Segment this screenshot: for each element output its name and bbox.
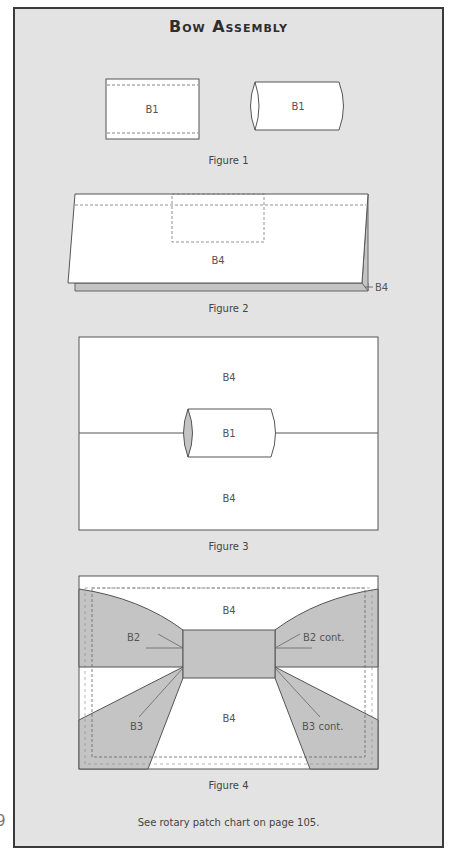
figure-4-b2-cont-label: B2 cont. xyxy=(303,632,344,643)
figure-4-knot xyxy=(183,630,275,678)
figure-4-bottom-label: B4 xyxy=(222,713,235,724)
figure-4-b3-cont-label: B3 cont. xyxy=(302,721,343,732)
figure-4-diagram: B4 B4 B2 B2 cont. B3 B3 cont. xyxy=(15,9,442,846)
page-number: 9 xyxy=(0,812,6,830)
figure-4-top-label: B4 xyxy=(222,605,235,616)
figure-4-caption: Figure 4 xyxy=(15,780,442,791)
figure-4-b3-label: B3 xyxy=(130,721,143,732)
bow-assembly-panel: Bow Assembly B1 B1 Figure 1 B4 B4 xyxy=(13,7,444,848)
footer-note: See rotary patch chart on page 105. xyxy=(15,817,442,828)
figure-4-b2-label: B2 xyxy=(127,632,140,643)
